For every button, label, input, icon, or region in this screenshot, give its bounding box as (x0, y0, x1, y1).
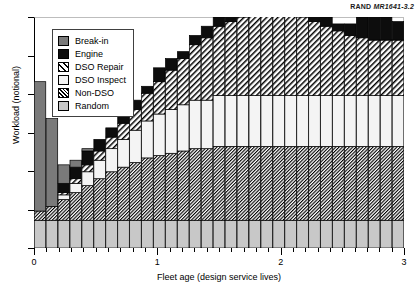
bar-segment-non-dso (273, 146, 285, 220)
bar-segment-break-in (82, 149, 94, 151)
bar-segment-dso-inspect (285, 96, 297, 147)
bar-segment-random (368, 220, 380, 248)
bar-segment-non-dso (58, 199, 70, 220)
bar-segment-break-in (58, 165, 70, 183)
bar-segment-random (142, 220, 154, 248)
x-tick-label: 3 (392, 257, 416, 267)
bar-segment-engine (70, 167, 82, 179)
bar-segment-non-dso (201, 149, 213, 221)
x-tick-label: 0 (22, 257, 46, 267)
bar-stack (380, 17, 392, 248)
bar-stack (106, 128, 118, 248)
bar-segment-non-dso (237, 146, 249, 220)
bar-segment-dso-repair (106, 137, 118, 149)
bar-segment-dso-repair (225, 22, 237, 96)
bar-stack (82, 149, 94, 248)
chart-legend: Break-inEngineDSO RepairDSO InspectNon-D… (52, 29, 134, 117)
bar-segment-non-dso (345, 146, 357, 220)
bar-segment-non-dso (46, 206, 58, 220)
bar-segment-random (225, 220, 237, 248)
bar-segment-dso-inspect (165, 109, 177, 153)
bar-segment-random (285, 220, 297, 248)
bar-segment-random (177, 220, 189, 248)
bar-stack (177, 52, 189, 248)
legend-swatch-dense-diagonal-hatch (58, 88, 69, 98)
bar-segment-dso-inspect (118, 139, 130, 167)
legend-swatch-solid-light-gray (58, 101, 69, 111)
bar-segment-dso-repair (142, 93, 154, 121)
bar-segment-dso-repair (201, 38, 213, 100)
bar-segment-engine (213, 17, 225, 26)
y-tick (28, 56, 34, 57)
bar-segment-random (309, 220, 321, 248)
bar-stack (297, 17, 309, 248)
bar-stack (213, 17, 225, 248)
bar-segment-dso-inspect (333, 96, 345, 147)
y-tick (28, 210, 34, 211)
bar-segment-non-dso (297, 146, 309, 220)
bar-segment-non-dso (356, 146, 368, 220)
x-tick-major (34, 248, 35, 255)
legend-swatch-solid-dark-gray (58, 36, 69, 46)
x-tick-minor (293, 248, 294, 252)
x-tick-minor (194, 248, 195, 252)
x-tick-minor (392, 248, 393, 252)
bar-stack (368, 17, 380, 248)
bar-segment-dso-repair (213, 26, 225, 95)
bar-segment-engine (58, 183, 70, 192)
bar-segment-non-dso (82, 186, 94, 221)
bar-stack (273, 17, 285, 248)
bar-stack (201, 26, 213, 248)
bar-segment-dso-inspect (380, 96, 392, 147)
bar-segment-random (356, 220, 368, 248)
bar-segment-engine (333, 24, 345, 31)
bar-segment-engine (154, 68, 166, 82)
bar-stack (333, 24, 345, 248)
bar-segment-random (118, 220, 130, 248)
bar-segment-break-in (46, 119, 58, 207)
bar-segment-engine (82, 151, 94, 165)
figure-container: RAND MR1641-3.2 Workload (notional) 0123… (0, 0, 420, 293)
bar-stack (34, 82, 46, 248)
bar-segment-non-dso (106, 172, 118, 221)
bar-segment-dso-repair (70, 179, 82, 184)
bar-segment-random (58, 220, 70, 248)
x-tick-minor (207, 248, 208, 252)
bar-segment-break-in (34, 82, 46, 211)
bar-segment-dso-repair (82, 165, 94, 172)
bar-segment-non-dso (94, 179, 106, 221)
bar-segment-random (154, 220, 166, 248)
bar-stack (154, 68, 166, 248)
bar-segment-engine (165, 59, 177, 71)
bar-segment-dso-repair (285, 17, 297, 96)
bar-segment-random (213, 220, 225, 248)
x-tick-minor (355, 248, 356, 252)
bar-segment-non-dso (213, 146, 225, 220)
bar-segment-dso-repair (297, 17, 309, 96)
x-tick-major (157, 248, 158, 255)
bar-segment-dso-inspect (70, 183, 82, 192)
x-tick-major (404, 248, 405, 255)
bar-segment-engine (345, 24, 357, 36)
bar-stack (94, 139, 106, 248)
bar-segment-random (34, 220, 46, 248)
bar-stack (356, 17, 368, 248)
bar-stack (285, 17, 297, 248)
x-tick-minor (268, 248, 269, 252)
legend-item-dso-inspect: DSO Inspect (58, 73, 126, 86)
bar-segment-dso-inspect (297, 96, 309, 147)
x-tick-minor (318, 248, 319, 252)
bar-segment-dso-repair (237, 17, 249, 96)
y-axis-label: Workload (notional) (11, 5, 21, 205)
legend-item-break-in: Break-in (58, 34, 126, 47)
bar-segment-non-dso (225, 146, 237, 220)
bar-segment-random (130, 220, 142, 248)
bar-segment-non-dso (321, 146, 333, 220)
bar-segment-non-dso (285, 146, 297, 220)
x-tick-label: 1 (145, 257, 169, 267)
bar-segment-random (201, 220, 213, 248)
bar-segment-dso-inspect (130, 130, 142, 162)
bar-segment-random (333, 220, 345, 248)
legend-label: Break-in (75, 36, 109, 46)
x-tick-minor (170, 248, 171, 252)
